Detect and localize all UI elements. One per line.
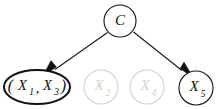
node-c-label: C xyxy=(115,12,126,28)
node-x4-var: X xyxy=(139,77,150,93)
node-x5-var: X xyxy=(188,78,199,94)
node-x1x3-comma: , xyxy=(36,80,40,96)
node-x1x3-sub2: 3 xyxy=(53,87,59,97)
node-x1x3-sub1: 1 xyxy=(29,87,34,97)
node-x2-var: X xyxy=(93,77,104,93)
node-x1x3-var1: X xyxy=(17,77,28,93)
edge-group xyxy=(43,32,194,78)
diagram-canvas: C ( X 1 , X 3 ) X 2 X 4 X 5 xyxy=(0,0,222,109)
edge-line-c-x1x3 xyxy=(55,33,108,70)
node-x1x3-var2: X xyxy=(42,77,53,93)
node-c[interactable]: C xyxy=(104,5,136,37)
node-x5-sub: 5 xyxy=(201,89,206,99)
node-x4-sub: 4 xyxy=(152,88,157,98)
node-x4[interactable]: X 4 xyxy=(130,70,164,104)
graph-svg: C ( X 1 , X 3 ) X 2 X 4 X 5 xyxy=(0,0,222,109)
node-x2-sub: 2 xyxy=(106,88,111,98)
node-x2[interactable]: X 2 xyxy=(84,70,118,104)
edge-line-c-x5 xyxy=(134,32,183,71)
node-x5[interactable]: X 5 xyxy=(179,71,213,105)
node-x1x3-merged[interactable]: ( X 1 , X 3 ) xyxy=(4,70,70,104)
node-x1x3-close-paren: ) xyxy=(60,77,66,95)
